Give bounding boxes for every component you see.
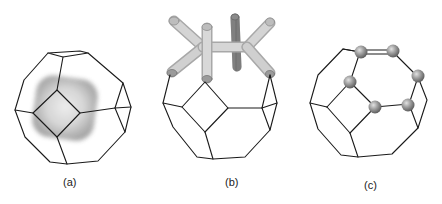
- panel-a-label: (a): [63, 176, 76, 188]
- panel-b: [163, 14, 277, 159]
- sphere: [355, 46, 368, 59]
- sphere: [369, 101, 382, 114]
- panel-a: [15, 51, 131, 164]
- panel-c: [310, 45, 427, 158]
- density-blob: [30, 73, 100, 143]
- panel-c-label: (c): [364, 179, 377, 191]
- sphere: [412, 70, 425, 83]
- tube-network: [167, 14, 275, 83]
- panel-b-label: (b): [225, 176, 238, 188]
- sphere: [344, 76, 357, 89]
- cage-b: [163, 75, 277, 159]
- sphere: [402, 99, 415, 112]
- figure-canvas: [0, 0, 442, 204]
- sphere: [387, 45, 400, 58]
- spheres: [344, 45, 425, 114]
